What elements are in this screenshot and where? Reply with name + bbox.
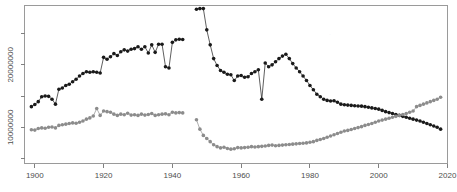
data-point bbox=[81, 119, 85, 123]
data-point bbox=[391, 115, 395, 119]
data-point bbox=[157, 113, 161, 117]
data-point bbox=[284, 143, 288, 147]
data-point bbox=[71, 121, 75, 125]
data-point bbox=[30, 105, 34, 109]
data-point bbox=[384, 117, 388, 121]
data-point bbox=[105, 110, 109, 114]
data-point bbox=[398, 114, 402, 118]
data-point bbox=[260, 97, 264, 101]
data-point bbox=[67, 82, 71, 86]
data-point bbox=[205, 137, 209, 141]
data-point bbox=[109, 110, 113, 114]
data-point bbox=[239, 74, 243, 78]
data-point bbox=[212, 143, 216, 147]
data-point bbox=[133, 113, 137, 117]
data-point bbox=[109, 55, 113, 59]
data-point bbox=[91, 70, 95, 74]
data-point bbox=[74, 77, 78, 81]
x-tick-label: 1940 bbox=[163, 171, 181, 180]
data-point bbox=[243, 146, 247, 150]
data-point bbox=[153, 114, 157, 118]
data-point bbox=[411, 117, 415, 121]
data-point bbox=[325, 99, 329, 103]
data-point bbox=[360, 125, 364, 129]
x-tick-label: 2000 bbox=[370, 171, 388, 180]
data-point bbox=[177, 111, 181, 115]
data-point bbox=[250, 145, 254, 149]
data-point bbox=[267, 144, 271, 148]
data-point bbox=[246, 145, 250, 149]
data-point bbox=[222, 145, 226, 149]
data-point bbox=[195, 118, 199, 122]
data-point bbox=[270, 63, 274, 67]
data-point bbox=[222, 71, 226, 75]
data-point bbox=[229, 147, 233, 151]
data-point bbox=[301, 74, 305, 78]
data-point bbox=[281, 54, 285, 58]
data-point bbox=[439, 96, 443, 100]
data-point bbox=[95, 71, 99, 75]
data-point bbox=[253, 70, 257, 74]
data-point bbox=[288, 57, 292, 61]
data-point bbox=[36, 127, 40, 131]
data-point bbox=[116, 114, 120, 118]
data-point bbox=[363, 105, 367, 109]
data-point bbox=[171, 41, 175, 45]
data-point bbox=[243, 76, 247, 80]
data-point bbox=[232, 79, 236, 83]
data-point bbox=[98, 114, 102, 118]
data-point bbox=[160, 112, 164, 116]
data-point bbox=[329, 99, 333, 103]
data-point bbox=[257, 68, 261, 72]
data-point bbox=[294, 142, 298, 146]
data-point bbox=[71, 80, 75, 84]
data-point bbox=[202, 7, 206, 11]
data-point bbox=[136, 114, 140, 118]
data-point bbox=[81, 72, 85, 76]
data-point bbox=[294, 66, 298, 70]
data-point bbox=[88, 116, 92, 120]
data-point bbox=[85, 117, 89, 121]
data-point bbox=[336, 132, 340, 136]
data-point bbox=[332, 133, 336, 137]
data-point bbox=[126, 111, 130, 115]
data-point bbox=[78, 74, 82, 78]
data-point bbox=[336, 101, 340, 105]
data-point bbox=[318, 95, 322, 99]
data-point bbox=[50, 125, 54, 129]
x-tick-label: 1920 bbox=[95, 171, 113, 180]
data-point bbox=[181, 111, 185, 115]
data-point bbox=[202, 134, 206, 138]
data-point bbox=[257, 145, 261, 149]
data-point bbox=[50, 97, 54, 101]
data-point bbox=[332, 99, 336, 103]
data-point bbox=[373, 107, 377, 111]
data-point bbox=[150, 112, 154, 116]
x-tick-label: 2020 bbox=[439, 171, 457, 180]
data-point bbox=[353, 127, 357, 131]
data-point bbox=[260, 145, 264, 149]
data-point bbox=[377, 119, 381, 123]
data-point bbox=[415, 105, 419, 109]
data-point bbox=[102, 56, 106, 60]
data-point bbox=[30, 128, 34, 132]
y-tick-label: 20000000 bbox=[7, 46, 16, 82]
data-point bbox=[64, 122, 68, 126]
data-point bbox=[401, 113, 405, 117]
data-point bbox=[346, 103, 350, 107]
data-point bbox=[61, 123, 65, 127]
data-point bbox=[408, 116, 412, 120]
data-point bbox=[36, 100, 40, 104]
data-point bbox=[150, 43, 154, 47]
data-point bbox=[226, 72, 230, 76]
data-point bbox=[54, 126, 58, 130]
data-point bbox=[305, 141, 309, 145]
data-point bbox=[40, 126, 44, 130]
data-point bbox=[277, 57, 281, 61]
data-point bbox=[435, 125, 439, 129]
data-point bbox=[318, 138, 322, 142]
data-point bbox=[102, 109, 106, 113]
data-point bbox=[349, 104, 353, 108]
data-point bbox=[95, 107, 99, 111]
data-point bbox=[236, 74, 240, 78]
